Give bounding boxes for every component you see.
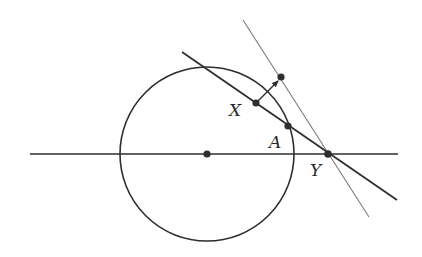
center-point [203,150,210,157]
point-x [252,99,259,106]
point-a [284,122,291,129]
point-y [324,150,332,158]
label-y: Y [310,160,323,180]
arrow-tip-point [277,73,284,80]
thin-line-through-y [243,20,369,217]
geometry-diagram: X A Y [0,0,422,257]
label-x: X [227,100,242,120]
label-a: A [267,132,281,152]
